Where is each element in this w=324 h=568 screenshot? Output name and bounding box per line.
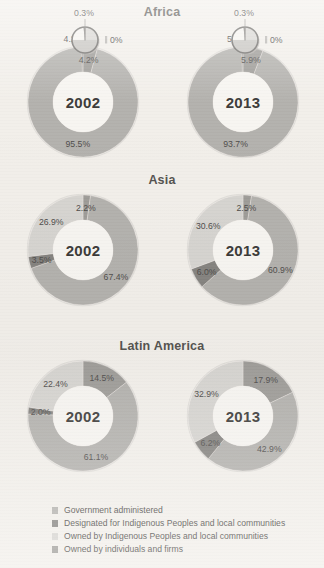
region-title-latin-america: Latin America <box>0 334 324 354</box>
donut-slice-label: 2.2% <box>76 203 96 213</box>
legend-swatch-icon <box>52 520 58 527</box>
legend-item-label: Owned by Indigenous Peoples and local co… <box>64 530 268 543</box>
legend-item-government-administered[interactable]: Government administered <box>52 504 314 517</box>
donut-slice-label: 6.0% <box>197 267 217 277</box>
donut-chart-latin-america-2002[interactable]: 200261.1%2.0%22.4%14.5% <box>8 354 158 486</box>
legend-item-owned-indigenous[interactable]: Owned by Indigenous Peoples and local co… <box>52 530 314 543</box>
donut-slice-label: 61.1% <box>84 452 109 462</box>
donut-slice-label: 60.9% <box>268 265 293 275</box>
donut-slice-label: 3.5% <box>32 255 52 265</box>
donut-slice-label: 6.2% <box>200 438 220 448</box>
donut-year-label: 2013 <box>226 242 261 259</box>
donut-slice-label: 5.9% <box>241 55 261 65</box>
donut-slice-label: 93.7% <box>223 139 248 149</box>
donut-slice-label: 17.9% <box>253 375 278 385</box>
donut-year-label: 2002 <box>66 94 101 111</box>
donut-slice-label: 2.0% <box>31 407 51 417</box>
donut-slice-label: 14.5% <box>89 373 114 383</box>
magnifier-callout <box>72 27 100 55</box>
donut-cell-africa-2013[interactable]: 201393.7%5.9%5.9%0.3%0% <box>168 20 318 172</box>
donut-slice-label: 2.5% <box>236 203 256 213</box>
region-title-africa: Africa <box>0 0 324 20</box>
legend-item-owned-individuals-firms[interactable]: Owned by individuals and firms <box>52 543 314 556</box>
donut-slice-label: 42.9% <box>257 444 282 454</box>
donut-year-label: 2002 <box>66 408 101 425</box>
donut-slice-label: 95.5% <box>65 139 90 149</box>
donut-slice-label: 26.9% <box>39 217 64 227</box>
donut-year-label: 2013 <box>226 408 261 425</box>
chart-page: Africa 200295.5%4.2%4.2%0.3%0% 201393.7%… <box>0 0 324 568</box>
donut-slice-label: 0.3% <box>74 8 94 18</box>
label-tick-marker <box>265 36 267 44</box>
region-block-asia: Asia 200267.4%3.5%26.9%2.2% 201360.9%6.0… <box>0 168 324 334</box>
donut-year-label: 2013 <box>226 94 261 111</box>
donut-cell-latin-america-2013[interactable]: 201342.9%6.2%32.9%17.9% <box>168 354 318 486</box>
donut-slice-label: 0.3% <box>234 8 254 18</box>
legend-item-label: Designated for Indigenous Peoples and lo… <box>64 517 285 530</box>
donut-chart-africa-2013[interactable]: 201393.7%5.9%5.9%0.3%0% <box>168 20 318 172</box>
legend-swatch-icon <box>52 546 58 553</box>
region-block-africa: Africa 200295.5%4.2%4.2%0.3%0% 201393.7%… <box>0 0 324 168</box>
donut-cell-asia-2013[interactable]: 201360.9%6.0%30.6%2.5% <box>168 188 318 320</box>
donut-chart-africa-2002[interactable]: 200295.5%4.2%4.2%0.3%0% <box>8 20 158 172</box>
donut-slice-label: 4.2% <box>79 55 99 65</box>
donut-chart-asia-2002[interactable]: 200267.4%3.5%26.9%2.2% <box>8 188 158 320</box>
donut-slice-label: 30.6% <box>196 221 221 231</box>
donut-cell-asia-2002[interactable]: 200267.4%3.5%26.9%2.2% <box>8 188 158 320</box>
chart-legend: Government administered Designated for I… <box>52 504 314 556</box>
magnifier-callout <box>232 27 260 55</box>
donut-slice-label: 0% <box>110 35 123 45</box>
legend-item-designated-indigenous[interactable]: Designated for Indigenous Peoples and lo… <box>52 517 314 530</box>
donut-year-label: 2002 <box>66 242 101 259</box>
donut-slice-label: 0% <box>270 35 283 45</box>
legend-swatch-icon <box>52 507 58 514</box>
region-title-asia: Asia <box>0 168 324 188</box>
legend-item-label: Owned by individuals and firms <box>64 543 183 556</box>
donut-chart-asia-2013[interactable]: 201360.9%6.0%30.6%2.5% <box>168 188 318 320</box>
donut-cell-africa-2002[interactable]: 200295.5%4.2%4.2%0.3%0% <box>8 20 158 172</box>
legend-swatch-icon <box>52 533 58 540</box>
region-block-latin-america: Latin America 200261.1%2.0%22.4%14.5% 20… <box>0 334 324 492</box>
donut-cell-latin-america-2002[interactable]: 200261.1%2.0%22.4%14.5% <box>8 354 158 486</box>
donut-slice-label: 67.4% <box>104 272 129 282</box>
donut-chart-latin-america-2013[interactable]: 201342.9%6.2%32.9%17.9% <box>168 354 318 486</box>
legend-item-label: Government administered <box>64 504 163 517</box>
donut-slice-label: 22.4% <box>43 379 68 389</box>
label-tick-marker <box>105 36 107 44</box>
donut-slice-label: 32.9% <box>194 389 219 399</box>
